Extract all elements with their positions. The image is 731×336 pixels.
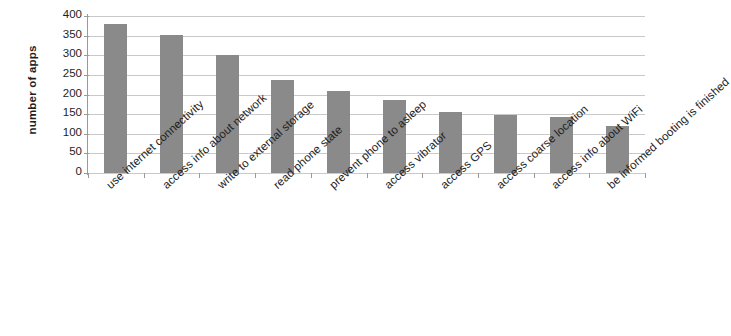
x-axis-label: prevent phone to asleep xyxy=(327,98,428,191)
x-axis-labels: use internet connectivityaccess info abo… xyxy=(0,0,652,160)
x-axis-label: be informed booting is finished xyxy=(605,76,731,191)
x-axis-label: access info about network xyxy=(160,91,269,191)
x-axis-label: use internet connectivity xyxy=(104,98,206,191)
x-axis-tick-mark xyxy=(534,173,535,178)
x-axis-label: access info about WiFi xyxy=(549,103,645,191)
x-axis-label: write to external storage xyxy=(215,98,316,191)
x-axis-tick-mark xyxy=(589,173,590,178)
x-axis-tick-mark xyxy=(255,173,256,178)
x-axis-tick-mark xyxy=(367,173,368,178)
x-axis-tick-mark xyxy=(144,173,145,178)
x-axis-tick-mark xyxy=(645,173,646,178)
y-axis-tick-label: 0 xyxy=(36,165,82,177)
x-axis-tick-mark xyxy=(311,173,312,178)
x-axis-tick-mark xyxy=(88,173,89,178)
x-axis-tick-mark xyxy=(199,173,200,178)
x-axis-label: access coarse location xyxy=(494,103,590,191)
x-axis-tick-mark xyxy=(478,173,479,178)
x-axis-tick-mark xyxy=(422,173,423,178)
